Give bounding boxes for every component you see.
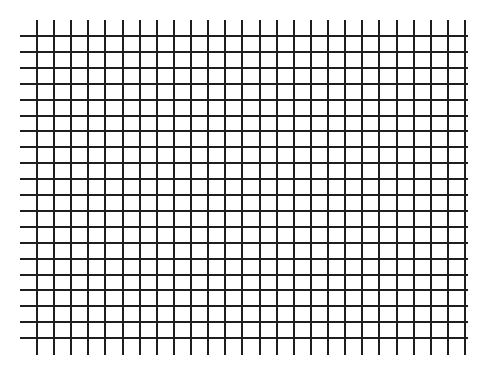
grid-horizontal-line bbox=[20, 115, 468, 117]
grid-horizontal-line bbox=[20, 162, 468, 164]
grid-horizontal-line bbox=[20, 337, 468, 339]
grid-horizontal-line bbox=[20, 51, 468, 53]
grid-paper bbox=[0, 0, 483, 370]
grid-horizontal-line bbox=[20, 67, 468, 69]
grid-horizontal-line bbox=[20, 321, 468, 323]
grid-horizontal-line bbox=[20, 305, 468, 307]
grid-horizontal-line bbox=[20, 210, 468, 212]
grid-horizontal-line bbox=[20, 35, 468, 37]
grid-horizontal-line bbox=[20, 178, 468, 180]
grid-horizontal-line bbox=[20, 194, 468, 196]
grid-horizontal-line bbox=[20, 274, 468, 276]
grid-horizontal-line bbox=[20, 130, 468, 132]
grid-horizontal-line bbox=[20, 289, 468, 291]
grid-horizontal-line bbox=[20, 226, 468, 228]
grid-horizontal-line bbox=[20, 146, 468, 148]
grid-horizontal-line bbox=[20, 258, 468, 260]
grid-horizontal-line bbox=[20, 83, 468, 85]
grid-horizontal-line bbox=[20, 99, 468, 101]
grid-horizontal-line bbox=[20, 242, 468, 244]
